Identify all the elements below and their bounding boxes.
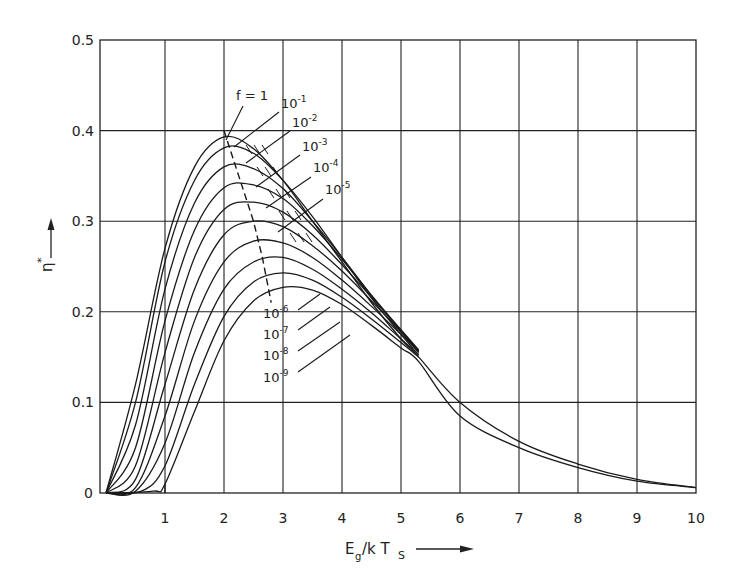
- x-tick-label: 8: [574, 510, 583, 526]
- leader-line: [298, 294, 320, 310]
- curve-label: 10-5: [325, 180, 351, 197]
- hatch-mark: [262, 145, 268, 154]
- y-axis-title-sup: *: [35, 257, 48, 263]
- curve-label: 10-7: [263, 325, 289, 342]
- y-axis-arrow-icon: [48, 218, 55, 258]
- y-tick-label: 0.3: [72, 213, 94, 229]
- y-tick-label: 0: [84, 485, 93, 501]
- curve: [106, 240, 419, 495]
- x-tick-label: 3: [279, 510, 288, 526]
- x-axis-title-kt: /k T: [362, 540, 391, 558]
- y-tick-label: 0.1: [72, 394, 94, 410]
- leader-line: [298, 307, 330, 330]
- x-tick-label: 2: [220, 510, 229, 526]
- y-tick-label: 0.4: [72, 123, 94, 139]
- x-tick-label: 10: [687, 510, 705, 526]
- x-axis-title-sub-g: g: [355, 551, 361, 562]
- x-tick-label: 6: [456, 510, 465, 526]
- leader-line: [234, 112, 279, 147]
- curve-label: 10-3: [302, 137, 328, 154]
- curve-label: 10-2: [292, 113, 318, 130]
- hatch-mark: [268, 189, 274, 198]
- curve-labels: f = 110-110-210-310-410-510-610-710-810-…: [226, 88, 351, 385]
- hatch-mark: [257, 167, 263, 176]
- curve-label: 10-4: [313, 158, 339, 175]
- x-tick-label: 9: [633, 510, 642, 526]
- x-tick-label: 5: [397, 510, 406, 526]
- curve-label: 10-1: [281, 94, 307, 111]
- y-axis-title: η *: [35, 257, 56, 272]
- curve-label: 10-8: [263, 346, 289, 363]
- x-tick-label: 4: [338, 510, 347, 526]
- curve-label: 10-6: [263, 304, 289, 321]
- hatch-mark: [298, 233, 304, 242]
- curve-label: 10-9: [263, 368, 289, 385]
- y-tick-label: 0.5: [72, 32, 94, 48]
- x-axis-title-e: E: [345, 540, 354, 558]
- hatch-mark: [290, 233, 296, 242]
- x-tick-label: 7: [515, 510, 524, 526]
- efficiency-chart: 1234567891000.10.20.30.40.5 f = 110-110-…: [0, 0, 739, 583]
- hatch-mark: [284, 189, 290, 198]
- axis-ticks: 1234567891000.10.20.30.40.5: [72, 32, 705, 526]
- leader-line: [226, 106, 243, 140]
- x-tick-label: 1: [161, 510, 170, 526]
- x-axis-title-sub-s: S: [398, 549, 405, 562]
- y-tick-label: 0.2: [72, 304, 94, 320]
- x-axis-title: E g /k T S: [345, 540, 405, 562]
- curve-label: f = 1: [236, 88, 268, 103]
- x-axis-arrow-icon: [416, 546, 474, 553]
